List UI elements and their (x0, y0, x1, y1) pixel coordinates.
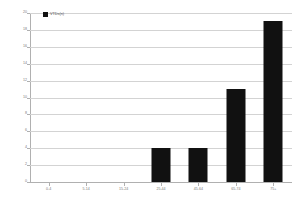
x-axis-tick (198, 183, 199, 186)
bar-slot (142, 13, 179, 182)
legend-label: VTDs(n) (50, 13, 64, 17)
legend: VTDs(n) (43, 12, 64, 17)
x-axis-tick-label: 5-14 (67, 188, 104, 192)
x-axis-tick (273, 183, 274, 186)
bar-slot (180, 13, 217, 182)
bar[interactable] (189, 148, 208, 182)
bar-chart: 02468101214161820 0-45-1415-2425-4445-64… (0, 0, 300, 207)
bar-slot (30, 13, 67, 182)
bar[interactable] (151, 148, 170, 182)
x-axis-tick (236, 183, 237, 186)
x-axis-tick (124, 183, 125, 186)
x-axis-tick (161, 183, 162, 186)
bars-layer (30, 13, 292, 182)
x-axis-tick-label: 25-44 (142, 188, 179, 192)
x-axis-labels: 0-45-1415-2425-4445-6465-7475+ (30, 183, 292, 205)
x-axis-tick-label: 65-74 (217, 188, 254, 192)
bar-slot (105, 13, 142, 182)
bar-slot (217, 13, 254, 182)
y-axis-labels: 02468101214161820 (0, 13, 27, 182)
x-axis-tick (86, 183, 87, 186)
x-axis-tick-label: 0-4 (30, 188, 67, 192)
x-axis-tick-label: 75+ (255, 188, 292, 192)
x-axis-tick-label: 45-64 (180, 188, 217, 192)
bar-slot (255, 13, 292, 182)
bar-slot (67, 13, 104, 182)
bar[interactable] (226, 89, 245, 182)
x-axis-tick-label: 15-24 (105, 188, 142, 192)
legend-swatch-icon (43, 12, 48, 17)
x-axis-tick (49, 183, 50, 186)
bar[interactable] (264, 21, 283, 182)
